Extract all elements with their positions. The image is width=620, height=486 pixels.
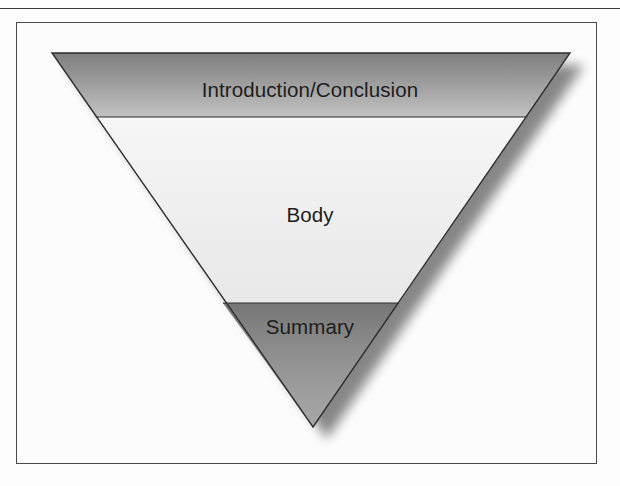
band-label-introduction: Introduction/Conclusion	[0, 78, 620, 102]
figure-root: Introduction/Conclusion Body Summary	[0, 0, 620, 486]
band-label-summary: Summary	[0, 315, 620, 339]
inverted-pyramid-diagram	[0, 0, 620, 486]
band-label-body: Body	[0, 203, 620, 227]
